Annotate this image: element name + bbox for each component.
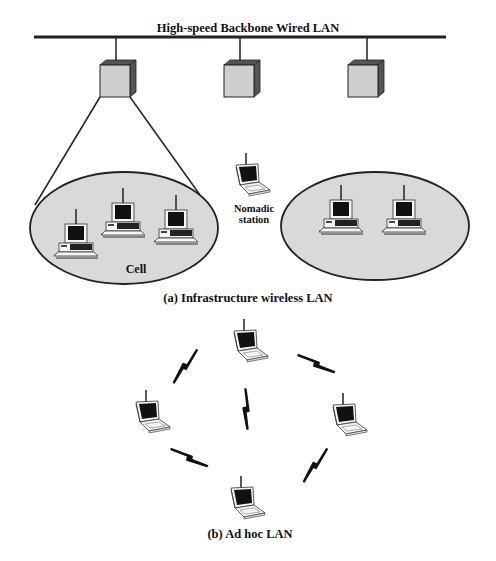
laptop-icon <box>234 319 268 362</box>
wireless-lan-diagram <box>0 0 496 561</box>
nomadic-station-label: Nomadic station <box>226 203 282 225</box>
nomadic-label-line2: station <box>226 214 282 225</box>
cell-label: Cell <box>118 262 154 277</box>
laptop-icon <box>236 153 270 196</box>
wireless-link-icon <box>170 446 208 470</box>
access-point-3 <box>348 37 384 97</box>
wireless-link-icon <box>297 352 335 376</box>
wireless-link-icon <box>300 447 329 482</box>
adhoc-network <box>136 319 367 519</box>
wireless-link-icon <box>170 348 199 383</box>
laptop-icon <box>231 476 265 519</box>
caption-infrastructure: (a) Infrastructure wireless LAN <box>140 291 356 306</box>
caption-adhoc: (b) Ad hoc LAN <box>190 527 310 542</box>
laptop-icon <box>333 393 367 436</box>
laptop-icon <box>136 390 170 433</box>
nomadic-label-line1: Nomadic <box>226 203 282 214</box>
access-point-2 <box>224 37 260 97</box>
backbone-label: High-speed Backbone Wired LAN <box>150 21 346 36</box>
cell-right <box>281 172 469 280</box>
wireless-link-icon <box>243 389 249 429</box>
access-point-1 <box>100 37 136 97</box>
nomadic-station <box>236 153 270 196</box>
